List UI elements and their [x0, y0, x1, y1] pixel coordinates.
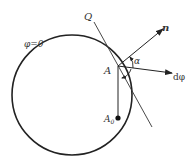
label-alpha: α — [134, 56, 140, 66]
diagram-canvas: φ=0 Q n α A dφ A0 — [0, 0, 196, 166]
label-A: A — [103, 65, 111, 76]
label-dphi: dφ — [173, 72, 185, 82]
label-A0: A0 — [103, 114, 115, 125]
vector-n — [118, 29, 163, 66]
angle-arc-alpha — [130, 57, 133, 68]
label-phi-zero: φ=0 — [24, 39, 44, 49]
label-Q: Q — [84, 11, 92, 22]
label-n: n — [162, 22, 169, 33]
circle — [12, 35, 132, 155]
tangent-line-Q — [94, 22, 152, 127]
point-A0-dot — [115, 115, 120, 120]
label-A0-subscript: 0 — [111, 118, 115, 125]
